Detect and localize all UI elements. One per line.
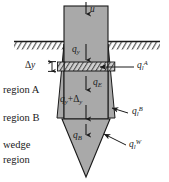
delta-y-dimension	[48, 62, 56, 72]
label-flux-l-W: qlW	[129, 139, 141, 150]
label-velocity-u: u	[90, 5, 95, 15]
label-flux-qy: qy	[72, 45, 80, 56]
label-flux-qB: qB	[73, 131, 82, 142]
ground-surface-left	[14, 42, 64, 50]
label-wedge-region-line1: wedge	[3, 140, 30, 151]
label-wedge-region-line2: region	[3, 155, 30, 166]
flux-diagram-figure: u qy qE qy+Δy qB qlA qlB qlW Δy region A…	[0, 0, 169, 182]
label-delta-y: Δy	[25, 61, 35, 71]
right-shoulder-wedge	[108, 44, 115, 118]
label-flux-l-B: qlB	[132, 106, 143, 117]
label-flux-l-A: qlA	[137, 60, 148, 71]
label-flux-qy-plus-delta: qy+Δy	[60, 95, 82, 106]
left-shoulder-wedge	[57, 44, 64, 118]
label-region-b: region B	[3, 113, 39, 124]
label-flux-qE: qE	[93, 78, 102, 89]
leader-flux-l-W	[104, 134, 126, 145]
label-region-a: region A	[3, 85, 39, 96]
ground-surface-right	[108, 42, 160, 50]
